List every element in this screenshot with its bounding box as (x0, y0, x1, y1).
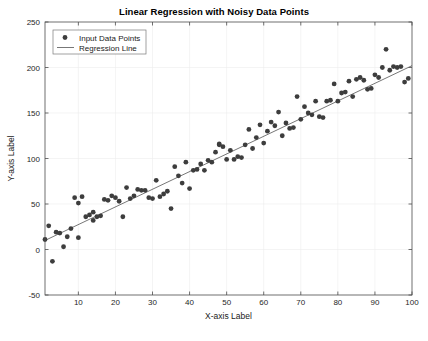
x-tick-label: 10 (74, 298, 83, 307)
legend-item-label: Regression Line (79, 44, 137, 53)
y-tick-label: -50 (28, 291, 40, 300)
legend-item-label: Input Data Points (79, 34, 140, 43)
x-tick-label: 60 (259, 298, 268, 307)
x-axis-title: X-axis Label (205, 311, 252, 321)
x-tick-label: 50 (222, 298, 231, 307)
x-tick-label: 40 (185, 298, 194, 307)
x-tick-label: 70 (296, 298, 305, 307)
y-axis-title: Y-axis Label (6, 135, 16, 181)
y-tick-label: 0 (36, 246, 41, 255)
x-tick-label: 100 (405, 298, 419, 307)
plot-area: 102030405060708090100-50050100150200250 … (0, 0, 428, 341)
legend-marker-icon (63, 35, 68, 40)
y-tick-label: 50 (31, 200, 40, 209)
y-tick-label: 150 (27, 109, 41, 118)
y-tick-label: 200 (27, 64, 41, 73)
chart-legend[interactable]: Input Data PointsRegression Line (53, 30, 146, 54)
tick-labels: 102030405060708090100-50050100150200250 (27, 18, 420, 307)
y-tick-label: 100 (27, 155, 41, 164)
chart-figure: Linear Regression with Noisy Data Points… (0, 0, 428, 341)
x-tick-label: 30 (148, 298, 157, 307)
axis-titles: X-axis LabelY-axis Label (6, 135, 252, 321)
x-tick-label: 80 (333, 298, 342, 307)
x-tick-label: 90 (370, 298, 379, 307)
y-tick-label: 250 (27, 18, 41, 27)
x-tick-label: 20 (111, 298, 120, 307)
